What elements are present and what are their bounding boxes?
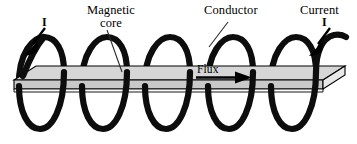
magnetic-core-label-line1: Magnetic: [87, 3, 135, 17]
current-symbol-left-label: I: [42, 16, 47, 29]
magnetic-core-figure: Magnetic core Conductor Current I I Flux: [0, 0, 357, 144]
figure-canvas: [0, 0, 357, 144]
current-label: Current: [300, 4, 339, 17]
magnetic-core-label: Magnetic core: [72, 4, 150, 30]
conductor-label: Conductor: [204, 4, 258, 17]
flux-label: Flux: [197, 63, 219, 76]
magnetic-core-label-line2: core: [100, 16, 122, 30]
current-symbol-right-label: I: [322, 16, 327, 29]
